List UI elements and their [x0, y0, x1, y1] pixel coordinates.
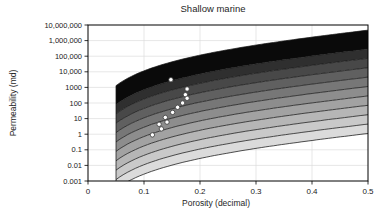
y-tick-label: 10,000,000 — [44, 21, 82, 30]
y-tick-label: 100 — [69, 99, 82, 108]
data-point — [170, 110, 174, 114]
data-point — [150, 133, 154, 137]
y-tick-label: 100,000 — [55, 52, 82, 61]
x-tick-label: 0.2 — [194, 187, 206, 196]
x-tick-label: 0.3 — [250, 187, 262, 196]
data-point — [157, 122, 161, 126]
x-tick-label: 0.5 — [362, 187, 374, 196]
data-point — [163, 115, 167, 119]
y-tick-labels: 10,000,0001,000,000100,00010,00010001001… — [44, 21, 82, 186]
data-point — [165, 120, 169, 124]
x-tick-label: 0.4 — [306, 187, 318, 196]
y-tick-label: 0.001 — [63, 177, 82, 186]
data-point — [169, 78, 173, 82]
data-point — [185, 96, 189, 100]
permeability-porosity-figure: Shallow marine Permeability (md) Porosit… — [0, 0, 388, 215]
x-tick-labels: 00.10.20.30.40.5 — [86, 187, 374, 196]
x-tick-label: 0.1 — [138, 187, 150, 196]
data-point — [180, 101, 184, 105]
data-point — [159, 127, 163, 131]
y-tick-label: 1000 — [65, 83, 82, 92]
data-point — [175, 105, 179, 109]
y-tick-label: 1 — [78, 130, 82, 139]
x-tick-label: 0 — [86, 187, 91, 196]
y-tick-label: 0.1 — [72, 145, 82, 154]
y-tick-label: 1,000,000 — [49, 36, 82, 45]
y-tick-label: 10 — [74, 114, 82, 123]
y-tick-label: 10,000 — [59, 67, 82, 76]
data-point — [185, 87, 189, 91]
porosity-permeability-plot: 10,000,0001,000,000100,00010,00010001001… — [0, 0, 388, 215]
y-tick-label: 0.01 — [67, 161, 82, 170]
